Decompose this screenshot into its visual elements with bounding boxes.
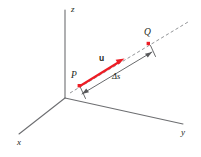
point-p-label: P bbox=[71, 71, 77, 81]
y-axis-label: y bbox=[181, 128, 185, 137]
z-axis-label: z bbox=[71, 5, 75, 14]
arc-length-label: Δs bbox=[112, 72, 120, 81]
dimension-arrowhead-right bbox=[145, 52, 152, 57]
x-axis-label: x bbox=[17, 138, 21, 147]
point-q-label: Q bbox=[144, 28, 151, 38]
x-axis-line bbox=[19, 98, 65, 134]
point-q-marker bbox=[147, 42, 150, 45]
vector-diagram-svg bbox=[0, 0, 201, 157]
point-p-marker bbox=[78, 84, 81, 87]
y-axis-line bbox=[65, 98, 183, 124]
dimension-tick-right bbox=[151, 46, 156, 57]
figure-canvas: z x y P Q u Δs bbox=[0, 0, 201, 157]
unit-vector-label: u bbox=[99, 54, 104, 63]
